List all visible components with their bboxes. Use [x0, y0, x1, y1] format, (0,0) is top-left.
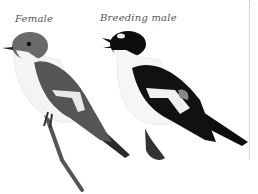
female-bird	[2, 32, 130, 190]
bird-illustration	[0, 0, 258, 194]
male-bird	[102, 31, 248, 160]
